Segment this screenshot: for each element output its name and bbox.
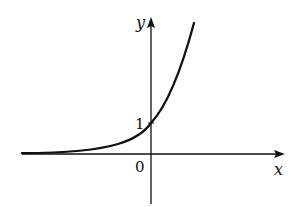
exponential-curve	[22, 23, 194, 153]
origin-label: 0	[135, 158, 145, 176]
y-axis-label: y	[135, 13, 146, 32]
x-axis-label: x	[274, 160, 283, 179]
exponential-graph: y x 0 1	[0, 0, 304, 207]
y-intercept-label: 1	[135, 115, 145, 133]
